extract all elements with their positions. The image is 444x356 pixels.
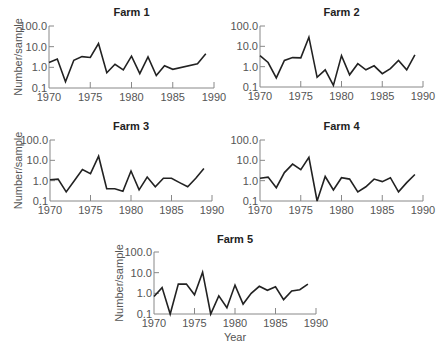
y-tick-label: 1.0	[33, 175, 48, 187]
y-tick-label: 10.0	[27, 154, 48, 166]
x-tick-label: 1975	[78, 204, 102, 216]
y-tick-label: 100.0	[230, 20, 258, 32]
series-line-farm-3	[50, 156, 204, 192]
chart-title: Farm 3	[113, 120, 149, 132]
series-line-farm-2	[260, 37, 415, 85]
chart-panel-farm-4: Farm 40.11.010.0100.01970197519801985199…	[230, 120, 435, 216]
y-tick-label: 10.0	[26, 41, 47, 53]
y-tick-label: 1.0	[32, 61, 47, 73]
y-tick-label: 100.0	[124, 246, 152, 258]
chart-panel-farm-3: Farm 30.11.010.0100.01970197519801985199…	[12, 120, 224, 216]
y-axis-label: Number/sample	[12, 18, 24, 96]
chart-title: Farm 1	[113, 6, 149, 18]
y-tick-label: 1.0	[243, 61, 258, 73]
x-tick-label: 1970	[37, 91, 61, 103]
x-tick-label: 1980	[329, 90, 353, 102]
y-tick-label: 100.0	[230, 134, 258, 146]
x-tick-label: 1975	[78, 91, 102, 103]
x-tick-label: 1975	[289, 204, 313, 216]
x-tick-label: 1990	[202, 91, 226, 103]
series-line-farm-5	[154, 272, 308, 314]
x-tick-label: 1985	[263, 317, 287, 329]
x-tick-label: 1990	[200, 204, 224, 216]
x-tick-label: 1970	[248, 204, 272, 216]
y-axis-label: Number/sample	[12, 132, 24, 210]
x-tick-label: 1970	[142, 317, 166, 329]
chart-panel-farm-5: Farm 50.11.010.0100.01970197519801985199…	[113, 233, 328, 343]
x-tick-label: 1985	[161, 91, 185, 103]
x-tick-label: 1990	[304, 317, 328, 329]
y-tick-label: 1.0	[243, 175, 258, 187]
y-tick-label: 10.0	[237, 154, 258, 166]
x-tick-label: 1985	[370, 204, 394, 216]
x-tick-label: 1975	[289, 90, 313, 102]
x-tick-label: 1975	[182, 317, 206, 329]
x-tick-label: 1970	[38, 204, 62, 216]
y-tick-label: 10.0	[131, 267, 152, 279]
chart-panel-farm-2: Farm 20.11.010.0100.01970197519801985199…	[230, 6, 435, 102]
x-tick-label: 1990	[411, 90, 435, 102]
chart-title: Farm 2	[323, 6, 359, 18]
y-tick-label: 1.0	[137, 287, 152, 299]
x-tick-label: 1980	[329, 204, 353, 216]
y-tick-label: 100.0	[20, 134, 48, 146]
x-tick-label: 1985	[159, 204, 183, 216]
chart-panel-farm-1: Farm 10.11.010.0100.01970197519801985199…	[12, 6, 226, 103]
x-tick-label: 1970	[248, 90, 272, 102]
series-line-farm-4	[260, 157, 415, 201]
y-tick-label: 10.0	[237, 40, 258, 52]
x-tick-label: 1985	[370, 90, 394, 102]
x-tick-label: 1990	[411, 204, 435, 216]
x-tick-label: 1980	[223, 317, 247, 329]
y-axis-label: Number/sample	[113, 244, 125, 322]
x-axis-label: Year	[224, 331, 247, 343]
x-tick-label: 1980	[119, 204, 143, 216]
chart-title: Farm 4	[323, 120, 360, 132]
farm-charts-figure: Farm 10.11.010.0100.01970197519801985199…	[0, 0, 444, 356]
chart-title: Farm 5	[217, 233, 253, 245]
x-tick-label: 1980	[119, 91, 143, 103]
series-line-farm-1	[49, 44, 206, 82]
